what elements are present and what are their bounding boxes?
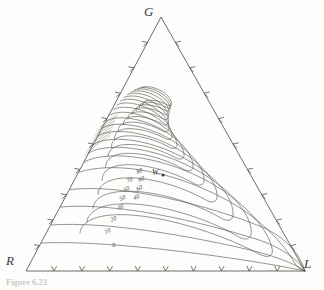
contour-inner-1 [106, 118, 194, 171]
contour-level-0 [42, 243, 306, 271]
vertex-label-bottom-left: R [6, 253, 14, 269]
contour-level-20 [61, 206, 306, 271]
contour-level-80 [98, 131, 218, 202]
ridge-crowding-strokes [85, 115, 118, 156]
tick-marks-bottom-edge [52, 266, 280, 271]
contour-lines [42, 87, 306, 271]
figure-container: G R L W. 807060506050403020100 Figure 6.… [0, 0, 324, 290]
tick-marks-right-edge [175, 41, 296, 250]
triangle-outline [26, 17, 305, 271]
ternary-contour-plot [0, 0, 324, 290]
peak-marker [162, 174, 165, 177]
tick-marks-left-edge [34, 41, 148, 249]
peak-annotation-label: W. [152, 168, 160, 177]
vertex-label-top: G [144, 4, 153, 20]
contour-level-50 [80, 156, 272, 257]
vertex-label-bottom-right: L [304, 256, 311, 272]
figure-caption: Figure 6.23 [6, 277, 47, 287]
